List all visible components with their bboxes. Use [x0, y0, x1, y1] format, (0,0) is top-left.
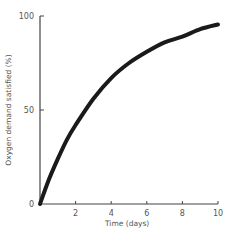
x-tick-label: 6 [144, 209, 149, 218]
x-tick-label: 4 [109, 209, 114, 218]
x-tick-label: 8 [180, 209, 185, 218]
y-axis-label: Oxygen demand satisfied (%) [4, 54, 13, 165]
y-tick-label: 100 [19, 12, 34, 21]
x-tick-label: 10 [213, 209, 223, 218]
x-tick-label: 2 [73, 209, 78, 218]
y-tick-label: 0 [29, 200, 34, 209]
y-tick-label: 50 [24, 106, 34, 115]
data-curve [40, 24, 218, 204]
x-axis-label: Time (days) [104, 219, 149, 228]
bod-curve-chart: 050100 246810 Time (days) Oxygen demand … [0, 0, 232, 239]
